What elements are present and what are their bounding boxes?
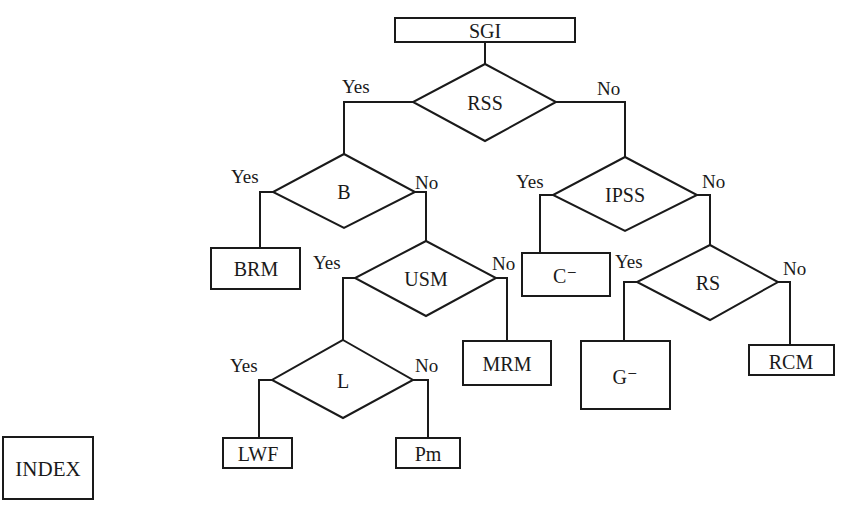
b-yes-label: Yes	[231, 167, 259, 186]
l-label: L	[337, 371, 349, 391]
usm-no-label: No	[492, 254, 515, 273]
b-label: B	[337, 182, 350, 202]
rs-label: RS	[696, 273, 720, 293]
g-minus-label: G⁻	[613, 367, 638, 387]
c-minus-label: C⁻	[553, 266, 577, 286]
usm-yes-label: Yes	[313, 253, 341, 272]
usm-label: USM	[404, 269, 447, 289]
pm-label: Pm	[415, 444, 442, 464]
brm-label: BRM	[234, 259, 278, 279]
rs-yes-label: Yes	[615, 252, 643, 271]
ipss-no-label: No	[702, 172, 725, 191]
l-no-label: No	[415, 356, 438, 375]
lwf-label: LWF	[238, 444, 279, 464]
rcm-label: RCM	[769, 352, 813, 372]
rs-no-label: No	[783, 259, 806, 278]
l-yes-label: Yes	[230, 356, 258, 375]
index-label: INDEX	[15, 459, 80, 480]
rss-label: RSS	[467, 93, 503, 113]
flowchart-lines	[0, 0, 841, 506]
ipss-yes-label: Yes	[516, 172, 544, 191]
rss-no-label: No	[597, 79, 620, 98]
b-no-label: No	[415, 173, 438, 192]
sgi-label: SGI	[469, 21, 501, 41]
rss-yes-label: Yes	[342, 77, 370, 96]
mrm-label: MRM	[483, 354, 532, 374]
ipss-label: IPSS	[605, 185, 645, 205]
